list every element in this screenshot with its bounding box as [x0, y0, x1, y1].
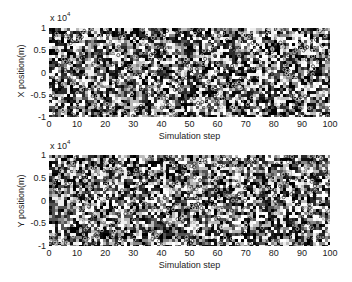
- x-tick-label: 100: [320, 249, 340, 258]
- x-tick-label: 60: [208, 249, 228, 258]
- y-tick-label: 1: [18, 24, 46, 33]
- x-tick-label: 10: [67, 249, 87, 258]
- y-tick-label: 0.5: [18, 174, 46, 183]
- y-tick-label: 1: [18, 151, 46, 160]
- x-tick-label: 80: [264, 249, 284, 258]
- y-tick-label: 0.5: [18, 46, 46, 55]
- x-position-panel: x 104 X position(m) 10.50-0.5-1 01020304…: [0, 0, 352, 141]
- y-tick-label: 0: [18, 197, 46, 206]
- x-tick-label: 0: [39, 249, 59, 258]
- x-position-scatter-area: [49, 28, 330, 117]
- x-tick-label: 50: [180, 249, 200, 258]
- x-axis-label: Simulation step: [49, 260, 330, 270]
- x-tick-label: 90: [292, 249, 312, 258]
- x-tick-label: 20: [95, 249, 115, 258]
- y-position-panel: x 104 Y position(m) 10.50-0.5-1 01020304…: [0, 127, 352, 268]
- y-scale-exponent: x 104: [50, 13, 70, 23]
- y-tick-label: 0: [18, 69, 46, 78]
- y-tick-label: -0.5: [18, 219, 46, 228]
- y-scale-exponent: x 104: [50, 141, 70, 151]
- x-tick-label: 70: [236, 249, 256, 258]
- x-tick-label: 30: [123, 249, 143, 258]
- y-tick-label: -0.5: [18, 91, 46, 100]
- x-tick-label: 40: [151, 249, 171, 258]
- y-position-scatter-area: [49, 155, 330, 246]
